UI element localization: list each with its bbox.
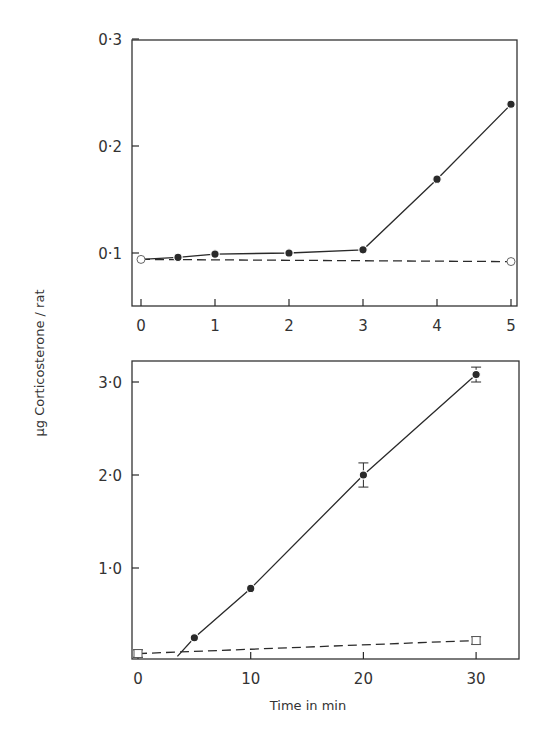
data-point-filled — [507, 100, 515, 108]
data-point-open — [137, 255, 145, 263]
chart-top-panel: 012345 0·10·20·3 — [98, 31, 517, 335]
data-point-filled — [285, 249, 293, 257]
y-tick-label: 1·0 — [98, 560, 122, 578]
x-axis-ticks: 0102030 — [133, 652, 485, 688]
x-tick-label: 1 — [210, 317, 220, 335]
x-tick-label: 2 — [284, 317, 294, 335]
x-axis-label: Time in min — [269, 698, 346, 713]
y-axis-label: µg Corticosterone / rat — [32, 289, 47, 436]
series-markers — [137, 100, 515, 265]
x-tick-label: 3 — [358, 317, 368, 335]
x-tick-label: 30 — [467, 670, 486, 688]
x-tick-label: 5 — [506, 317, 516, 335]
data-point-filled — [211, 250, 219, 258]
x-tick-label: 10 — [241, 670, 260, 688]
data-point-open-square — [134, 650, 142, 658]
data-point-filled — [190, 634, 198, 642]
x-tick-label: 0 — [133, 670, 143, 688]
data-point-filled — [433, 175, 441, 183]
data-point-filled — [472, 370, 480, 378]
y-tick-label: 0·2 — [98, 138, 122, 156]
series-markers — [133, 367, 481, 657]
series-line — [138, 641, 476, 654]
series-lines — [141, 104, 511, 261]
data-point-filled — [359, 246, 367, 254]
data-point-filled — [247, 584, 255, 592]
plot-frame — [132, 361, 519, 659]
y-tick-label: 3·0 — [98, 374, 122, 392]
data-point-open-square — [472, 637, 480, 645]
chart-bottom-panel: 0102030 1·02·03·0 Time in min — [98, 361, 519, 713]
series-line — [141, 104, 511, 259]
y-tick-label: 0·3 — [98, 31, 122, 49]
series-lines — [138, 375, 476, 657]
figure: µg Corticosterone / rat 012345 0·10·20·3… — [0, 0, 552, 741]
x-axis-ticks: 012345 — [136, 299, 516, 335]
y-axis-ticks: 0·10·20·3 — [98, 31, 139, 263]
plot-frame — [132, 40, 517, 306]
y-axis-ticks: 1·02·03·0 — [98, 374, 139, 578]
x-tick-label: 20 — [354, 670, 373, 688]
data-point-filled — [174, 253, 182, 261]
series-line — [141, 259, 511, 261]
series-line — [177, 375, 476, 657]
y-tick-label: 2·0 — [98, 467, 122, 485]
x-tick-label: 0 — [136, 317, 146, 335]
x-tick-label: 4 — [432, 317, 442, 335]
data-point-open — [507, 258, 515, 266]
data-point-filled — [359, 471, 367, 479]
y-tick-label: 0·1 — [98, 245, 122, 263]
